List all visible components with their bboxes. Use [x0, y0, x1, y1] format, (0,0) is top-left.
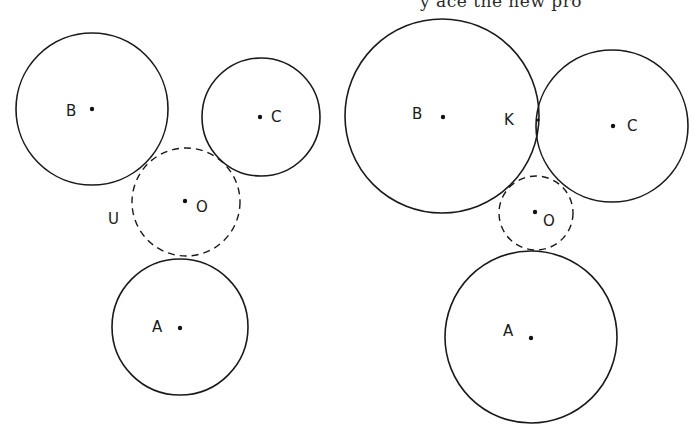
right-figure: B C O A K [345, 19, 688, 423]
left-center-a [178, 326, 182, 330]
left-center-o [183, 199, 187, 203]
circle-tangency-diagrams: B C O A U B C O A K [0, 0, 697, 429]
left-center-c [258, 115, 262, 119]
left-figure: B C O A U [16, 33, 320, 395]
right-center-c [611, 124, 615, 128]
right-label-k: K [504, 111, 515, 129]
right-label-o: O [543, 212, 555, 230]
left-label-o: O [196, 198, 208, 216]
left-label-a: A [152, 318, 163, 336]
left-label-b: B [66, 102, 76, 120]
right-center-b [441, 115, 445, 119]
right-label-a: A [503, 322, 514, 340]
right-center-a [529, 336, 533, 340]
left-center-b [90, 107, 94, 111]
right-tangent-point-k [536, 118, 539, 121]
left-label-u: U [108, 210, 119, 228]
right-label-b: B [412, 105, 422, 123]
left-label-c: C [271, 108, 281, 126]
right-label-c: C [627, 117, 637, 135]
right-center-o [533, 210, 537, 214]
